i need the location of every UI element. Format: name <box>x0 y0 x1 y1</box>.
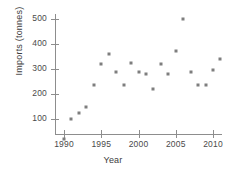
scatter-chart: 100200300400500 19901995200020052010 Imp… <box>0 0 226 179</box>
y-tick <box>51 19 59 20</box>
data-point <box>63 138 66 141</box>
data-point <box>212 68 215 71</box>
data-point <box>189 70 192 73</box>
data-point <box>197 83 200 86</box>
x-tick <box>176 130 177 138</box>
data-point <box>70 118 73 121</box>
data-point <box>130 61 133 64</box>
x-axis-title: Year <box>0 155 226 165</box>
y-tick <box>51 94 59 95</box>
x-tick <box>139 130 140 138</box>
data-point <box>115 71 118 74</box>
data-point <box>159 63 162 66</box>
y-tick <box>51 119 59 120</box>
y-tick <box>51 44 59 45</box>
data-point <box>77 111 80 114</box>
data-point <box>85 106 88 109</box>
data-point <box>144 73 147 76</box>
data-point <box>122 84 125 87</box>
data-point <box>92 84 95 87</box>
y-tick-label: 500 <box>32 13 47 23</box>
data-point <box>174 50 177 53</box>
y-tick-label: 400 <box>32 38 47 48</box>
data-point <box>204 83 207 86</box>
data-point <box>167 73 170 76</box>
x-tick-label: 2005 <box>166 139 186 149</box>
data-point <box>107 53 110 56</box>
x-tick-label: 1995 <box>91 139 111 149</box>
data-point <box>137 70 140 73</box>
x-tick <box>101 130 102 138</box>
x-tick-label: 2000 <box>129 139 149 149</box>
data-point <box>152 88 155 91</box>
y-tick-label: 200 <box>32 88 47 98</box>
plot-area: 100200300400500 19901995200020052010 Imp… <box>0 0 226 179</box>
data-point <box>182 18 185 21</box>
y-tick <box>51 69 59 70</box>
y-tick-label: 100 <box>32 113 47 123</box>
x-tick <box>213 130 214 138</box>
x-tick-label: 2010 <box>203 139 223 149</box>
y-tick-label: 300 <box>32 63 47 73</box>
data-point <box>219 58 222 61</box>
y-axis-title: Imports (tonnes) <box>14 0 24 96</box>
y-axis-line <box>55 14 56 135</box>
data-point <box>100 63 103 66</box>
x-tick-label: 1990 <box>54 139 74 149</box>
